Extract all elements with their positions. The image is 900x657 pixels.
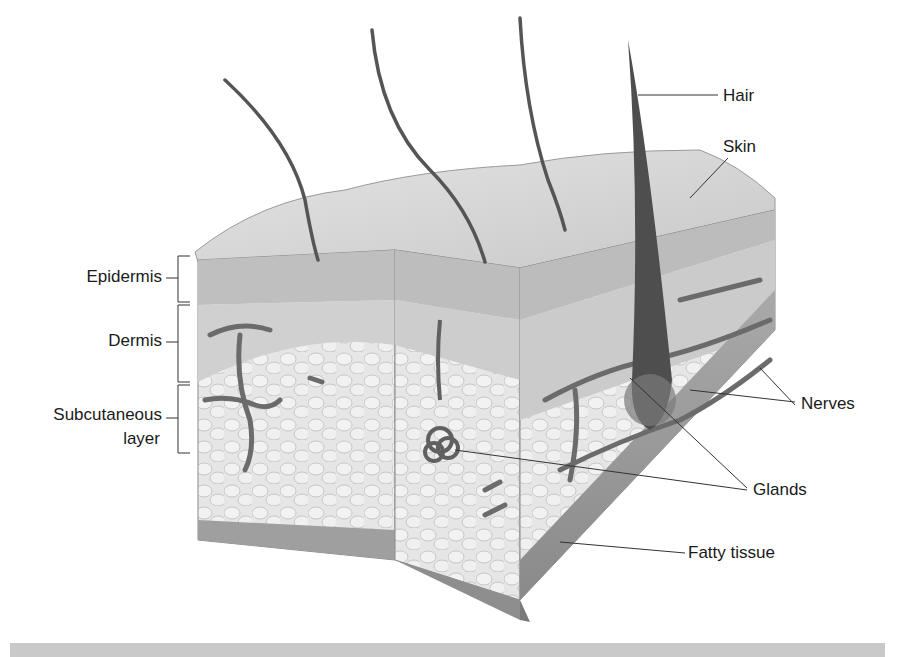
label-glands: Glands bbox=[753, 480, 807, 500]
label-subcutaneous-line2: layer bbox=[10, 429, 160, 449]
layer-brackets bbox=[166, 256, 190, 453]
label-epidermis: Epidermis bbox=[20, 267, 162, 287]
label-skin: Skin bbox=[723, 137, 756, 157]
skin-diagram: Epidermis Dermis Subcutaneous layer Hair… bbox=[0, 0, 900, 657]
label-dermis: Dermis bbox=[20, 331, 162, 351]
label-hair: Hair bbox=[723, 86, 754, 106]
bottom-divider-bar bbox=[10, 643, 885, 657]
label-fatty-tissue: Fatty tissue bbox=[688, 543, 775, 563]
label-subcutaneous: Subcutaneous bbox=[10, 405, 162, 425]
label-nerves: Nerves bbox=[801, 394, 855, 414]
